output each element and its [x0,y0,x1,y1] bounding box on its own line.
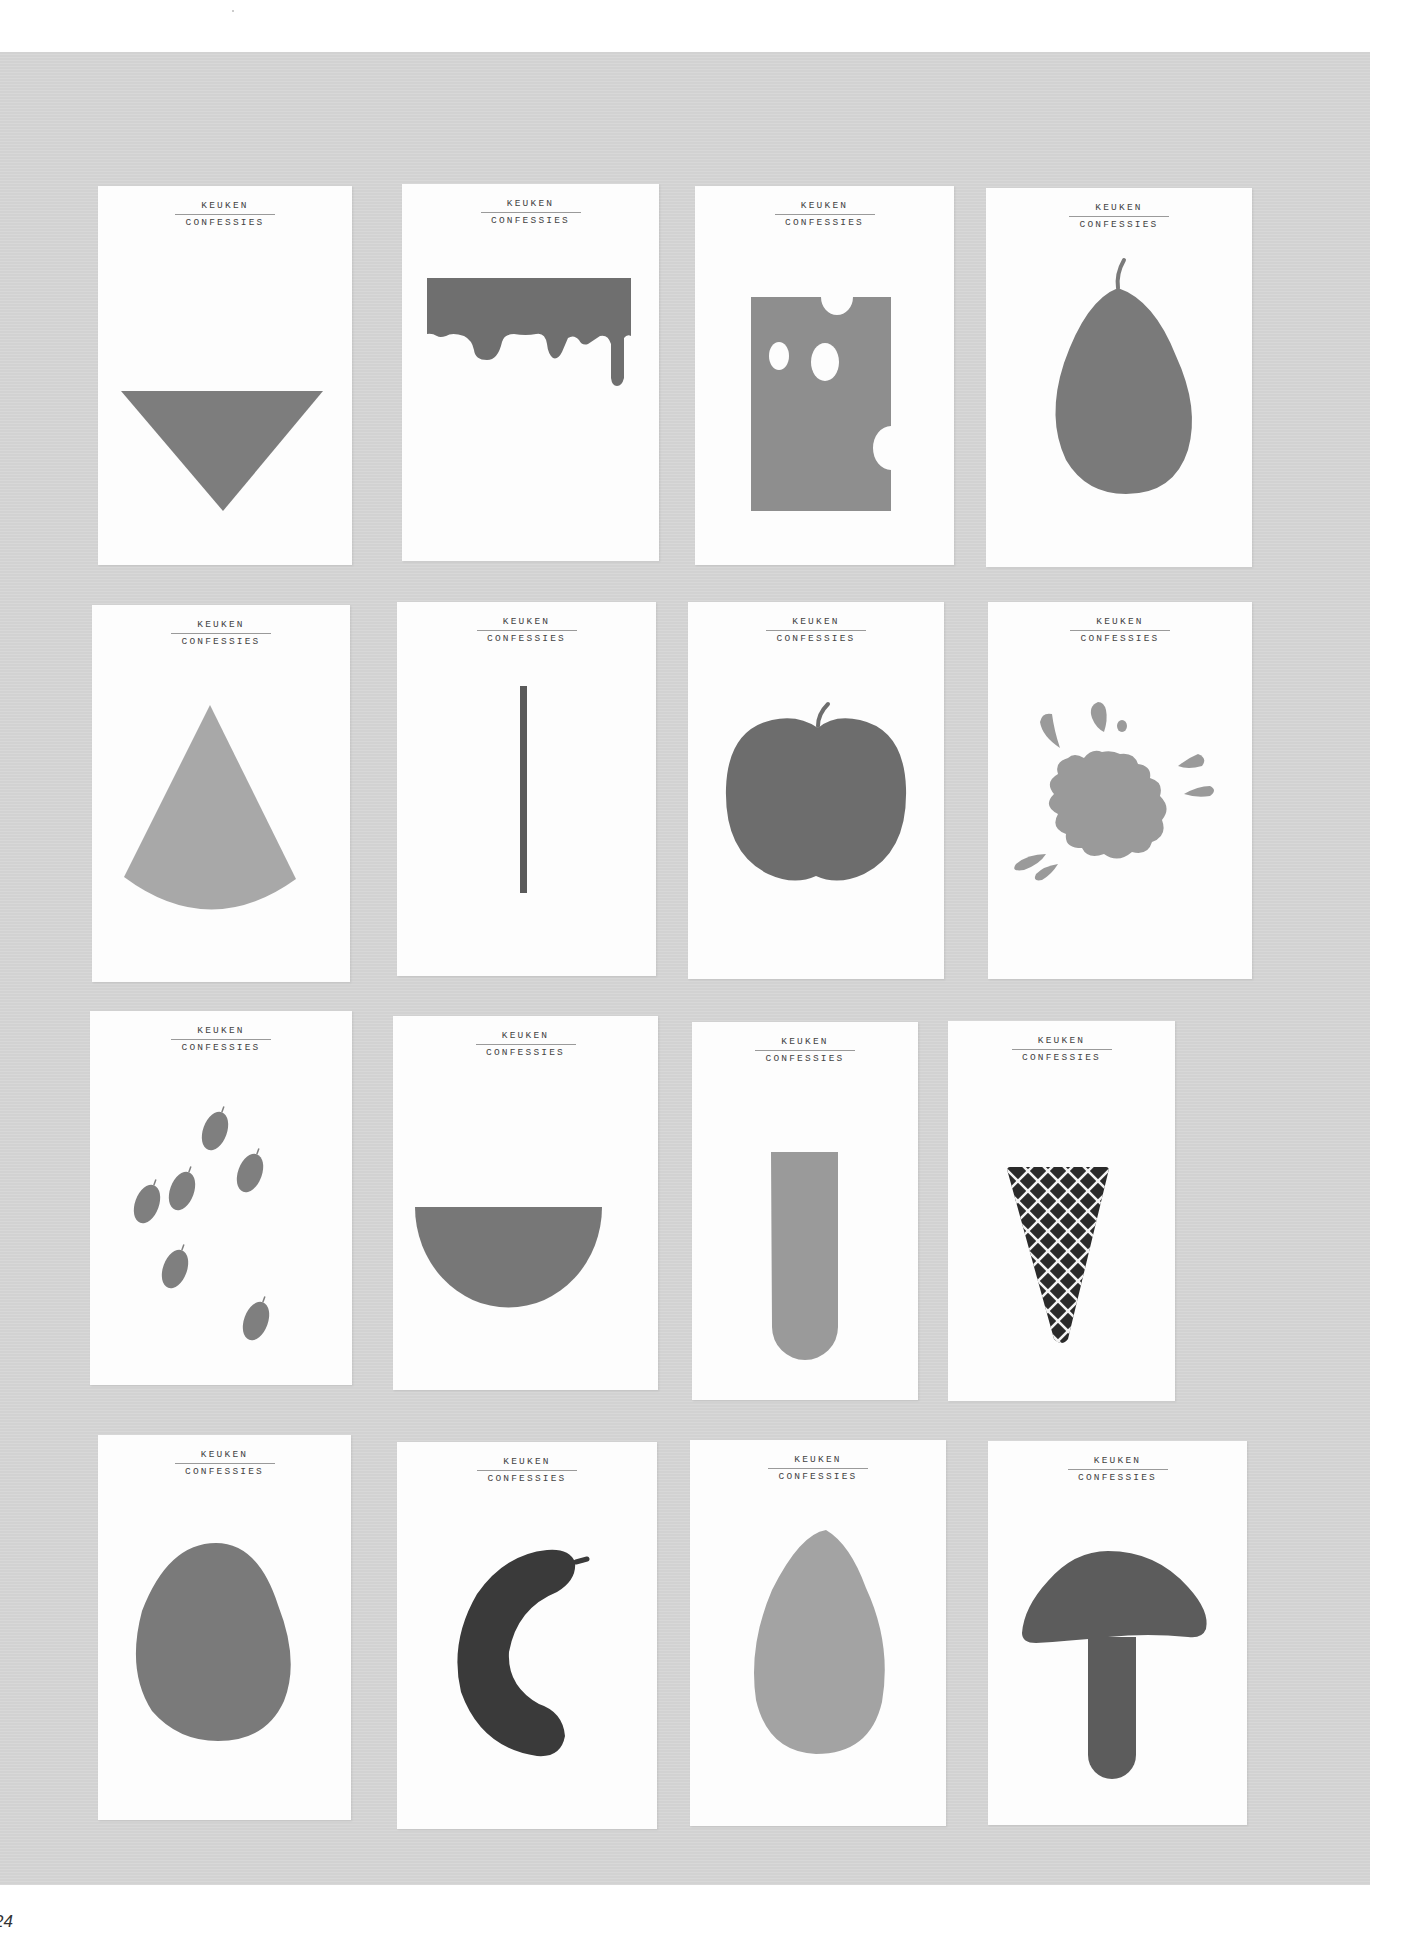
card-sausage: KEUKEN CONFESSIES [397,1442,657,1829]
card-seeds: KEUKEN CONFESSIES [90,1011,352,1385]
card-cheese-block: KEUKEN CONFESSIES [695,186,954,565]
egg-icon [98,1435,351,1820]
bowl-icon [393,1016,658,1390]
card-inverted-triangle: KEUKEN CONFESSIES [98,186,352,565]
card-egg: KEUKEN CONFESSIES [98,1435,351,1820]
card-apple: KEUKEN CONFESSIES [688,602,944,979]
apple-icon [688,602,944,979]
card-waffle-cone: KEUKEN CONFESSIES [948,1021,1175,1401]
dust-speck [232,10,234,12]
card-dripping-bar: KEUKEN CONFESSIES [402,184,659,561]
card-test-tube: KEUKEN CONFESSIES [692,1022,918,1400]
seeds-icon [90,1011,352,1385]
pie-slice-icon [92,605,350,982]
almond-icon [690,1440,946,1826]
card-splash: KEUKEN CONFESSIES [988,602,1252,979]
waffle-cone-icon [948,1021,1175,1401]
sausage-icon [397,1442,657,1829]
pear-icon [986,188,1252,567]
splash-icon [988,602,1252,979]
inverted-triangle-icon [98,186,352,565]
dripping-bar-icon [402,184,659,561]
thin-stick-icon [397,602,656,976]
card-mushroom: KEUKEN CONFESSIES [988,1441,1247,1825]
card-pie-slice: KEUKEN CONFESSIES [92,605,350,982]
page-number: 24 [0,1912,13,1932]
card-bowl: KEUKEN CONFESSIES [393,1016,658,1390]
mushroom-icon [988,1441,1247,1825]
card-pear: KEUKEN CONFESSIES [986,188,1252,567]
cheese-block-icon [695,186,954,565]
test-tube-icon [692,1022,918,1400]
card-almond: KEUKEN CONFESSIES [690,1440,946,1826]
card-thin-stick: KEUKEN CONFESSIES [397,602,656,976]
